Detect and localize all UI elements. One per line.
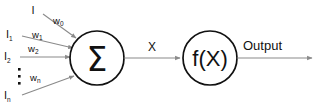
weight-label-n: wn: [29, 72, 41, 84]
sigma-icon: Σ: [87, 40, 108, 79]
input-label-0: I: [31, 4, 34, 16]
output-label: Output: [243, 38, 282, 53]
intermediate-signal-label: X: [148, 40, 156, 54]
neuron-diagram-canvas: Σ f(X) I I1 I2 In w0 w1 w2 wn X Output: [0, 0, 317, 105]
weight-label-2: w2: [27, 43, 39, 55]
activation-arg: X: [206, 46, 221, 71]
input-label-1: I1: [6, 28, 13, 42]
neuron-diagram: Σ f(X) I I1 I2 In w0 w1 w2 wn X Output: [0, 0, 317, 105]
weight-label-1: w1: [31, 29, 43, 41]
weight-label-0: w0: [52, 15, 64, 27]
input-label-2: I2: [4, 50, 11, 64]
ellipsis-icon: [18, 68, 21, 85]
input-label-n: In: [4, 89, 11, 103]
activation-function-label: f(X): [192, 46, 227, 71]
activation-close-paren: ): [220, 46, 227, 71]
